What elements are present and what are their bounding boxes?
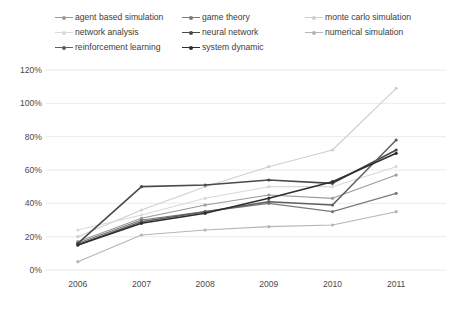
legend-item-numerical-simulation[interactable]: numerical simulation [305, 25, 403, 40]
data-point [76, 228, 79, 231]
series-line-agent-based-simulation [78, 175, 396, 242]
data-point [204, 228, 207, 231]
data-point [267, 178, 270, 181]
legend-row: reinforcement learningsystem dynamic [55, 40, 445, 55]
data-point [331, 185, 334, 188]
x-tick-label: 2011 [387, 280, 405, 289]
data-point [331, 197, 334, 200]
x-tick-label: 2008 [196, 280, 215, 289]
y-tick-label: 120% [20, 66, 42, 75]
x-tick-label: 2007 [132, 280, 151, 289]
legend-item-monte-carlo-simulation[interactable]: monte carlo simulation [305, 10, 411, 25]
y-tick-label: 60% [25, 166, 42, 175]
plot-area [46, 62, 446, 294]
data-point [331, 223, 334, 226]
legend-label: network analysis [75, 28, 139, 37]
data-point [395, 138, 398, 141]
legend-label: neural network [202, 28, 258, 37]
data-point [204, 183, 207, 186]
data-point [331, 148, 334, 151]
data-point [140, 208, 143, 211]
data-point [267, 193, 270, 196]
chart-legend: agent based simulationgame theorymonte c… [55, 10, 445, 58]
legend-label: game theory [202, 13, 250, 22]
x-axis: 200620072008200920102011 [46, 62, 450, 86]
y-axis: 0%20%40%60%80%100%120% [0, 62, 46, 294]
plot-wrapper: 0%20%40%60%80%100%120% 20062007200820092… [0, 62, 450, 319]
legend-label: agent based simulation [75, 13, 163, 22]
data-point [76, 243, 79, 246]
legend-row: agent based simulationgame theorymonte c… [55, 10, 445, 25]
data-point [395, 148, 398, 151]
data-point [395, 192, 398, 195]
data-point [76, 235, 79, 238]
series-line-monte-carlo-simulation [78, 88, 396, 236]
data-point [267, 225, 270, 228]
data-point [140, 213, 143, 216]
legend-label: numerical simulation [325, 28, 403, 37]
data-point [395, 210, 398, 213]
legend-row: network analysisneural networknumerical … [55, 25, 445, 40]
legend-item-network-analysis[interactable]: network analysis [55, 25, 139, 40]
data-point [331, 180, 334, 183]
data-point [76, 260, 79, 263]
line-chart-svg [46, 62, 446, 294]
legend-item-agent-based-simulation[interactable]: agent based simulation [55, 10, 163, 25]
chart-figure: agent based simulationgame theorymonte c… [0, 0, 450, 319]
legend-marker-icon [182, 28, 200, 37]
data-point [267, 200, 270, 203]
data-point [204, 212, 207, 215]
data-point [331, 210, 334, 213]
y-tick-label: 20% [25, 232, 42, 241]
data-point [395, 152, 398, 155]
data-point [204, 197, 207, 200]
y-tick-label: 100% [20, 99, 42, 108]
legend-item-game-theory[interactable]: game theory [182, 10, 250, 25]
legend-item-neural-network[interactable]: neural network [182, 25, 258, 40]
legend-marker-icon [305, 13, 323, 22]
series-line-system-dynamic [78, 153, 396, 245]
data-point [267, 165, 270, 168]
x-tick-label: 2009 [259, 280, 278, 289]
data-point [267, 197, 270, 200]
data-point [140, 185, 143, 188]
data-point [395, 165, 398, 168]
legend-label: system dynamic [202, 43, 264, 52]
legend-marker-icon [182, 43, 200, 52]
y-tick-label: 0% [30, 266, 42, 275]
legend-marker-icon [55, 13, 73, 22]
legend-label: reinforcement learning [75, 43, 161, 52]
data-point [140, 233, 143, 236]
x-tick-label: 2010 [323, 280, 342, 289]
y-tick-label: 40% [25, 199, 42, 208]
legend-item-reinforcement-learning[interactable]: reinforcement learning [55, 40, 161, 55]
data-point [395, 173, 398, 176]
legend-marker-icon [305, 28, 323, 37]
data-point [204, 203, 207, 206]
legend-marker-icon [55, 28, 73, 37]
legend-label: monte carlo simulation [325, 13, 411, 22]
data-point [267, 185, 270, 188]
data-point [140, 222, 143, 225]
x-tick-label: 2006 [68, 280, 87, 289]
data-point [331, 203, 334, 206]
legend-item-system-dynamic[interactable]: system dynamic [182, 40, 264, 55]
legend-marker-icon [55, 43, 73, 52]
legend-marker-icon [182, 13, 200, 22]
y-tick-label: 80% [25, 132, 42, 141]
data-point [395, 87, 398, 90]
